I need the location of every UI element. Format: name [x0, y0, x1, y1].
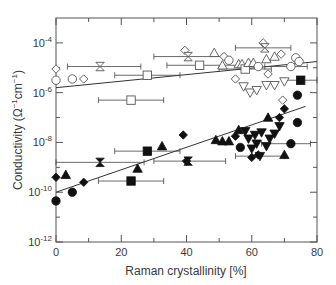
triangle-down-marker [280, 78, 289, 86]
circle-marker [254, 62, 262, 70]
circle-marker [68, 75, 76, 83]
square-marker [195, 61, 203, 69]
circle-marker [52, 76, 60, 84]
y-tick-label: 10-6 [33, 85, 53, 99]
triangle-down-marker [270, 82, 279, 90]
diamond-marker [52, 173, 60, 181]
square-marker [296, 76, 304, 84]
circle-marker [295, 57, 303, 65]
diamond-marker [280, 105, 288, 113]
x-tick-label: 20 [115, 246, 127, 258]
triangle-up-marker [210, 48, 219, 56]
triangle-up-marker [61, 170, 70, 178]
conductivity-chart: 020406080 10-1210-1010-810-610-4 Raman c… [0, 0, 336, 285]
circle-marker [236, 143, 244, 151]
y-tick-label: 10-10 [28, 184, 52, 198]
triangle-up-marker [224, 137, 233, 145]
circle-marker [68, 188, 76, 196]
diamond-marker [231, 75, 239, 83]
square-marker [127, 96, 135, 104]
y-tick-label: 10-12 [28, 234, 52, 248]
x-tick-label: 40 [180, 246, 192, 258]
x-axis-label: Raman crystallinity [%] [125, 264, 246, 278]
triangle-down-marker [244, 135, 253, 143]
triangle-down-marker [262, 82, 271, 90]
triangle-up-marker [280, 150, 289, 158]
diamond-marker [80, 178, 88, 186]
triangle-down-marker [245, 89, 254, 97]
diamond-marker [279, 96, 287, 104]
x-tick-label: 0 [53, 246, 59, 258]
diamond-marker [179, 131, 187, 139]
diamond-marker [52, 65, 60, 73]
diamond-marker [80, 75, 88, 83]
circle-marker [287, 62, 295, 70]
circle-marker [293, 91, 301, 99]
y-axis-label: Conductivity (Ω−1cm−1) [10, 70, 25, 190]
square-marker [127, 177, 135, 185]
diamond-marker [277, 50, 285, 58]
square-marker [143, 71, 151, 79]
circle-marker [287, 139, 295, 147]
square-marker [143, 147, 151, 155]
x-tick-label: 80 [311, 246, 323, 258]
x-tick-labels: 020406080 [53, 246, 323, 258]
x-tick-label: 60 [246, 246, 258, 258]
circle-marker [293, 118, 301, 126]
triangle-up-marker [157, 141, 166, 149]
y-tick-labels: 10-1210-1010-810-610-4 [28, 35, 52, 248]
circle-marker [225, 56, 233, 64]
triangle-up-marker [263, 113, 272, 121]
circle-marker [52, 197, 60, 205]
triangle-up-marker [262, 54, 271, 62]
y-tick-label: 10-4 [33, 35, 53, 49]
y-tick-label: 10-8 [33, 134, 53, 148]
